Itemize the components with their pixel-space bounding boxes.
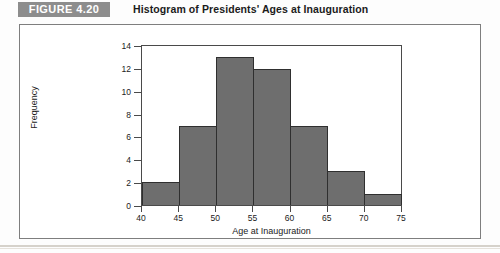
histogram-bar xyxy=(364,194,402,205)
plot-area xyxy=(141,45,402,206)
y-axis-tick-label: 12 xyxy=(112,65,131,74)
y-axis-tick xyxy=(134,183,141,184)
x-axis-tick xyxy=(215,206,216,212)
x-axis-tick-label: 40 xyxy=(126,214,156,223)
x-axis-tick xyxy=(252,206,253,212)
y-axis-title: Frequency xyxy=(30,63,39,153)
y-axis-tick-label: 14 xyxy=(112,42,131,51)
y-axis-tick xyxy=(134,92,141,93)
x-axis-tick-label: 55 xyxy=(237,214,267,223)
x-axis-tick xyxy=(327,206,328,212)
figure-border-box: 02468101214 Frequency 4045505560657075 A… xyxy=(19,24,481,239)
y-axis-tick-label: 4 xyxy=(112,156,131,165)
x-axis-tick-label: 70 xyxy=(349,214,379,223)
x-axis-tick-label: 75 xyxy=(386,214,416,223)
x-axis-tick xyxy=(290,206,291,212)
histogram-bar xyxy=(142,182,180,205)
y-axis-tick xyxy=(134,69,141,70)
figure-title: Histogram of Presidents' Ages at Inaugur… xyxy=(133,3,368,16)
histogram-bar xyxy=(290,126,328,206)
histogram-chart: 02468101214 Frequency 4045505560657075 A… xyxy=(20,25,482,240)
y-axis-tick-label: 6 xyxy=(112,133,131,142)
histogram-bar xyxy=(179,126,217,206)
y-axis-tick-label: 0 xyxy=(112,202,131,211)
x-axis-tick xyxy=(178,206,179,212)
y-axis-tick xyxy=(134,46,141,47)
histogram-bars xyxy=(142,46,401,205)
x-axis-tick-label: 60 xyxy=(275,214,305,223)
page-edge-rule-secondary xyxy=(0,248,500,249)
x-axis-title: Age at Inauguration xyxy=(141,227,402,236)
figure-number-badge: FIGURE 4.20 xyxy=(18,2,110,17)
y-axis-tick xyxy=(134,115,141,116)
histogram-bar xyxy=(216,57,254,205)
y-axis-tick-label: 10 xyxy=(112,88,131,97)
figure-page: FIGURE 4.20 Histogram of Presidents' Age… xyxy=(0,0,500,253)
x-axis-tick-label: 50 xyxy=(200,214,230,223)
x-axis-tick xyxy=(364,206,365,212)
x-axis-tick-label: 65 xyxy=(312,214,342,223)
page-edge-rule xyxy=(0,245,500,247)
x-axis-tick xyxy=(141,206,142,212)
histogram-bar xyxy=(327,171,365,205)
y-axis-tick-label: 8 xyxy=(112,111,131,120)
x-axis-tick xyxy=(401,206,402,212)
figure-header: FIGURE 4.20 Histogram of Presidents' Age… xyxy=(0,0,500,24)
x-axis-tick-label: 45 xyxy=(163,214,193,223)
y-axis-tick xyxy=(134,160,141,161)
y-axis-tick-label: 2 xyxy=(112,179,131,188)
y-axis-tick xyxy=(134,206,141,207)
y-axis-tick xyxy=(134,137,141,138)
histogram-bar xyxy=(253,69,291,205)
